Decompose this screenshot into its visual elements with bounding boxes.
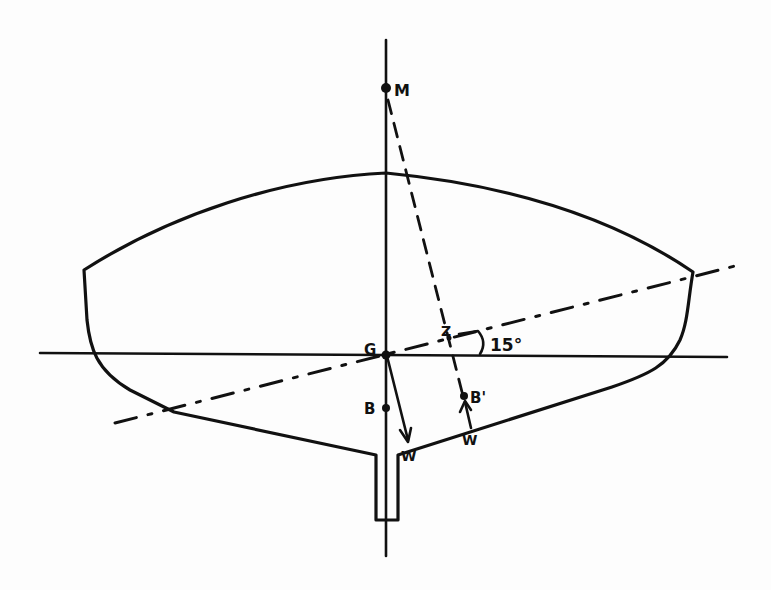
centre-of-buoyancy-point <box>382 404 390 412</box>
label-G: G <box>364 341 376 359</box>
label-W-buoyancy: W <box>462 432 477 448</box>
weight-arrow <box>388 360 408 440</box>
centre-of-gravity-point <box>382 351 391 360</box>
label-B: B <box>364 400 375 418</box>
angle-arc <box>459 331 483 354</box>
heeled-centre-of-buoyancy-point <box>460 392 468 400</box>
metacentre-point <box>381 83 391 93</box>
label-Z: Z <box>441 323 451 339</box>
label-M: M <box>394 81 410 100</box>
label-B-prime: B' <box>470 389 486 407</box>
hull-outline <box>84 173 693 520</box>
heeled-waterline <box>115 266 735 423</box>
metacentric-line <box>388 100 462 392</box>
label-W-weight: W <box>401 448 416 464</box>
label-angle: 15° <box>490 335 522 355</box>
ship-stability-diagram: M G Z B B' W W 15° <box>0 0 771 590</box>
